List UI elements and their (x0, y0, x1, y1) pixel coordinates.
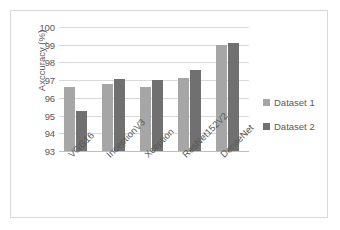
legend-item-2: Dataset 2 (263, 121, 325, 132)
y-tick-100: 100 (39, 22, 55, 33)
y-tick-94: 94 (45, 128, 55, 139)
bar-vgg16-series1 (64, 87, 75, 151)
bar-densenet-series1 (216, 45, 227, 151)
x-axis-tick-labels: VGG16InceptionV3XceptionResNet152V2Dense… (59, 152, 249, 214)
y-tick-97: 97 (45, 75, 55, 86)
chart-legend: Dataset 1Dataset 2 (263, 97, 325, 145)
legend-item-1: Dataset 1 (263, 97, 325, 108)
y-tick-96: 96 (45, 92, 55, 103)
chart-frame: Axccuracy (%) 10099989796959493 VGG16Inc… (10, 10, 328, 218)
y-tick-98: 98 (45, 57, 55, 68)
legend-label-1: Dataset 1 (274, 97, 315, 108)
y-tick-95: 95 (45, 110, 55, 121)
legend-swatch-icon-2 (263, 123, 270, 130)
bar-inceptionv3-series1 (102, 84, 113, 151)
legend-swatch-icon-1 (263, 99, 270, 106)
y-tick-99: 99 (45, 39, 55, 50)
y-axis-tick-labels: 10099989796959493 (25, 27, 55, 151)
legend-label-2: Dataset 2 (274, 121, 315, 132)
y-tick-93: 93 (45, 146, 55, 157)
bar-resnet152v2-series1 (178, 78, 189, 152)
